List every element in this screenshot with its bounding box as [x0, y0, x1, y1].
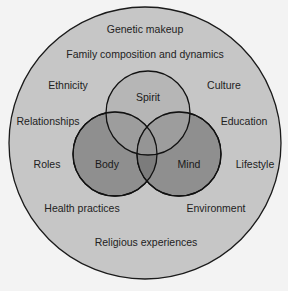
label-ethnicity: Ethnicity — [48, 79, 88, 91]
label-religious-experiences: Religious experiences — [95, 236, 198, 248]
label-genetic-makeup: Genetic makeup — [107, 23, 184, 35]
label-lifestyle: Lifestyle — [236, 158, 275, 170]
label-mind: Mind — [178, 158, 201, 170]
label-family-composition: Family composition and dynamics — [66, 48, 224, 60]
label-relationships: Relationships — [16, 115, 79, 127]
label-education: Education — [221, 115, 268, 127]
label-body: Body — [95, 158, 120, 170]
label-health-practices: Health practices — [44, 202, 119, 214]
label-culture: Culture — [207, 79, 241, 91]
label-environment: Environment — [187, 202, 246, 214]
spirit-circle — [106, 71, 190, 155]
diagram-canvas: Genetic makeup Family composition and dy… — [0, 0, 288, 291]
holistic-health-diagram: Genetic makeup Family composition and dy… — [0, 0, 288, 291]
label-spirit: Spirit — [136, 91, 160, 103]
label-roles: Roles — [34, 158, 61, 170]
